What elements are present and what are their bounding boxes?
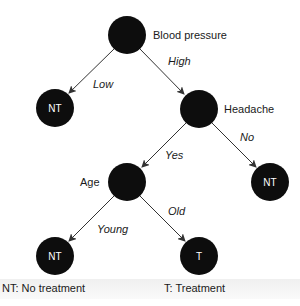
node-nt-young: NT <box>36 237 74 275</box>
leaf-text-nt: NT <box>263 177 276 188</box>
legend-t: T: Treatment <box>164 282 225 294</box>
node-t-old: T <box>180 237 218 275</box>
node-label-headache: Headache <box>224 103 274 115</box>
edge-no <box>212 123 256 167</box>
leaf-text-nt: NT <box>48 251 61 262</box>
decision-tree: Low High Yes No Young Old Blood pressure… <box>0 0 300 306</box>
leaf-text-t: T <box>196 251 202 262</box>
node-label-blood-pressure: Blood pressure <box>153 29 227 41</box>
decision-node-circle <box>180 90 218 128</box>
edge-label-no: No <box>240 131 254 143</box>
node-blood-pressure: Blood pressure <box>108 16 227 54</box>
node-age: Age <box>80 163 146 201</box>
edge-label-high: High <box>168 55 191 67</box>
edge-label-yes: Yes <box>165 149 184 161</box>
edge-old <box>140 196 185 241</box>
edge-label-low: Low <box>93 78 114 90</box>
node-nt-no: NT <box>251 163 289 201</box>
edge-label-young: Young <box>97 223 129 235</box>
node-headache: Headache <box>180 90 274 128</box>
edge-label-old: Old <box>168 205 186 217</box>
node-nt-low: NT <box>36 89 74 127</box>
decision-node-circle <box>108 163 146 201</box>
node-label-age: Age <box>80 176 100 188</box>
decision-node-circle <box>108 16 146 54</box>
leaf-text-nt: NT <box>48 103 61 114</box>
legend-nt: NT: No treatment <box>2 282 85 294</box>
